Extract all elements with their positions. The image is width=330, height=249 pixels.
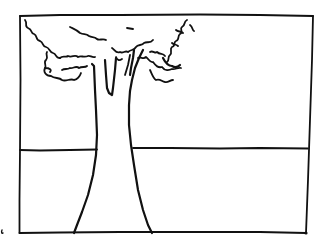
tree-trunk bbox=[74, 50, 152, 233]
margin-mark bbox=[2, 230, 3, 233]
tree-crown bbox=[25, 20, 194, 82]
sketch-canvas bbox=[0, 0, 330, 249]
frame bbox=[20, 15, 314, 235]
horizon bbox=[20, 148, 308, 151]
